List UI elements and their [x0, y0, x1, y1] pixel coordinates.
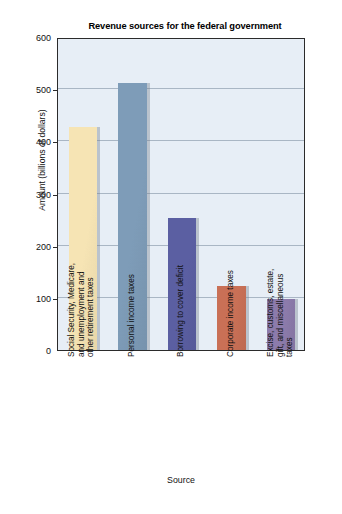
- y-tick-label: 100: [11, 294, 51, 304]
- y-tick-mark: [53, 90, 57, 91]
- x-tick-label: Social Security, Medicare,and unemployme…: [67, 263, 96, 357]
- chart-title: Revenue sources for the federal governme…: [40, 20, 330, 32]
- x-tick-label-line: taxes: [285, 269, 295, 357]
- x-tick-label: Excise, customs, estate,gift, and miscel…: [266, 269, 295, 357]
- x-tick-label-line: Excise, customs, estate,: [266, 269, 276, 357]
- x-tick-label-line: other retirement taxes: [87, 263, 97, 357]
- y-tick-mark: [53, 299, 57, 300]
- x-tick-label: Personal income taxes: [127, 274, 137, 357]
- x-tick-label-line: Personal income taxes: [127, 274, 137, 357]
- x-tick-label: Borrowing to cover deficit: [176, 265, 186, 357]
- y-tick-mark: [53, 195, 57, 196]
- bar-chart-figure: Revenue sources for the federal governme…: [0, 0, 342, 514]
- x-tick-label-line: gift, and miscellaneous: [275, 269, 285, 357]
- y-tick-mark: [53, 247, 57, 248]
- x-tick-label-line: Corporate income taxes: [226, 270, 236, 357]
- y-tick-mark: [53, 142, 57, 143]
- x-axis-title: Source: [57, 475, 305, 485]
- x-tick-label-line: Borrowing to cover deficit: [176, 265, 186, 357]
- x-tick-label: Corporate income taxes: [226, 270, 236, 357]
- y-tick-label: 0: [11, 346, 51, 356]
- y-tick-label: 600: [11, 33, 51, 43]
- x-tick-label-line: Social Security, Medicare,: [67, 263, 77, 357]
- x-tick-label-line: and unemployment and: [77, 263, 87, 357]
- y-axis-title: Amount (billions of dollars): [37, 70, 47, 250]
